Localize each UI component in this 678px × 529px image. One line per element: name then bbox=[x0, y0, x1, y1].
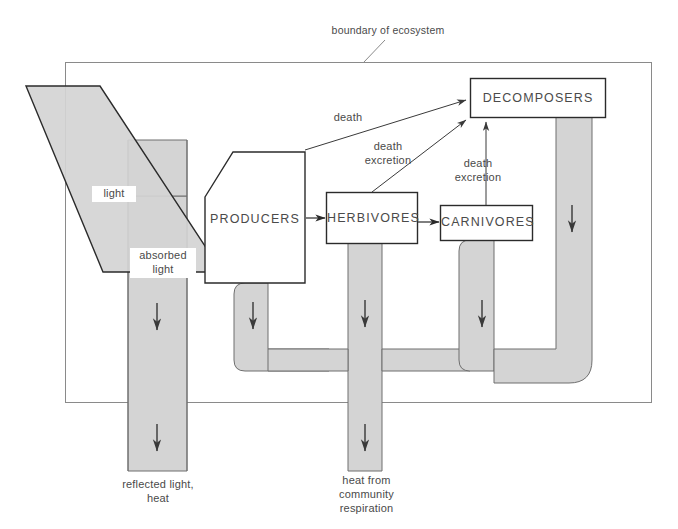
diagram-graphics bbox=[0, 0, 678, 529]
reflected-light-heat-label: reflected light, heat bbox=[100, 478, 216, 506]
energy-bands bbox=[128, 117, 592, 471]
absorbed-light-label: absorbed light bbox=[130, 248, 196, 278]
light-beam bbox=[26, 86, 222, 272]
energy-flow-diagram: boundary of ecosystem PRODUCERS HERBIVOR… bbox=[0, 0, 678, 529]
producers-label: PRODUCERS bbox=[205, 212, 305, 228]
death-excretion-carnivores-label: death excretion bbox=[442, 157, 514, 185]
herbivores-label: HERBIVORES bbox=[327, 211, 417, 227]
decomposers-label: DECOMPOSERS bbox=[471, 91, 605, 107]
light-beam-shape bbox=[26, 86, 222, 272]
band-manifold-bar bbox=[268, 349, 348, 371]
carnivores-label: CARNIVORES bbox=[441, 215, 532, 231]
death-producers-label: death bbox=[326, 111, 370, 125]
death-excretion-herbivores-label: death excretion bbox=[352, 140, 424, 168]
band-manifold-bar-right bbox=[382, 349, 470, 371]
boundary-leader-line bbox=[364, 40, 385, 62]
boundary-of-ecosystem-label: boundary of ecosystem bbox=[298, 24, 478, 37]
heat-community-respiration-label: heat from community respiration bbox=[309, 474, 424, 515]
band-carnivores-respiration bbox=[459, 240, 494, 371]
light-label: light bbox=[92, 186, 136, 202]
